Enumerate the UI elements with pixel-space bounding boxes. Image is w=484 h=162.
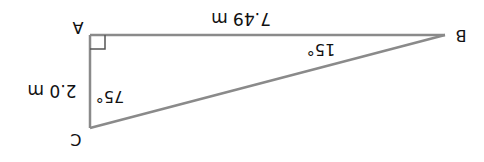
side-ab-label: 7.49 m [211, 9, 271, 29]
vertex-label-a: A [72, 18, 83, 37]
angle-b-label: 15° [307, 40, 335, 59]
vertex-label-b: B [456, 26, 467, 45]
triangle-diagram: A B C 7.49 m 2.0 m 15° 75° [0, 0, 484, 162]
side-bc [90, 35, 445, 128]
angle-c-label: 75° [96, 87, 124, 106]
right-angle-marker [90, 35, 105, 49]
side-ac-label: 2.0 m [28, 81, 77, 101]
vertex-label-c: C [70, 130, 81, 149]
